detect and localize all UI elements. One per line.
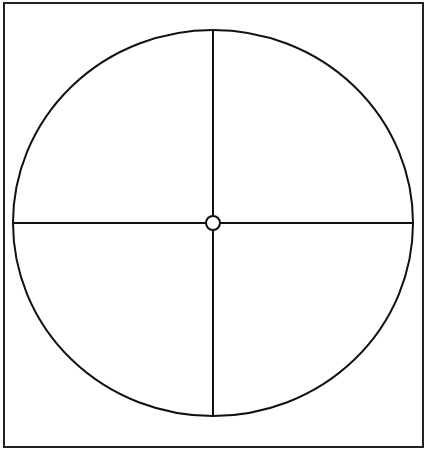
quadrant-diagram [0,0,427,455]
center-point [206,216,220,230]
